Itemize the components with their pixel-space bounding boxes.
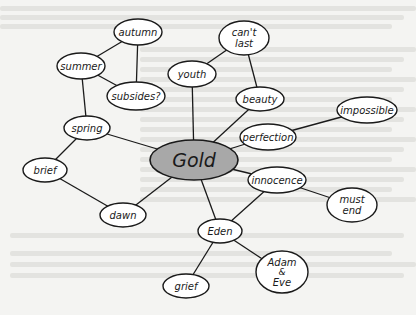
node-label: subsides? [112,91,162,102]
node-label: summer [60,61,102,72]
node-summer: summer [57,53,105,79]
node-impossible: impossible [337,97,397,123]
node-label: impossible [340,105,393,116]
node-innocence: innocence [248,167,306,193]
node-grief: grief [163,274,209,298]
node-label: grief [175,281,199,292]
node-eden: Eden [198,219,242,243]
node-spring: spring [64,116,110,140]
node-label: Eve [273,277,291,288]
node-label: & [278,267,285,277]
node-label: beauty [243,94,279,105]
node-youth: youth [168,61,216,87]
node-must-end: mustend [327,188,377,222]
node-label: dawn [110,210,137,221]
node-label: autumn [119,27,158,38]
node-subsides: subsides? [107,82,165,110]
node-beauty: beauty [236,87,284,111]
node-label: innocence [251,175,302,186]
node-label: Eden [207,226,232,237]
node-brief: brief [23,158,67,182]
node-perfection: perfection [240,124,296,150]
node-gold: Gold [150,140,238,180]
node-autumn: autumn [114,19,162,45]
node-label: youth [177,69,207,80]
node-label: last [235,38,254,49]
node-cant-last: can'tlast [219,21,269,55]
node-dawn: dawn [100,203,146,227]
node-label: Adam [266,257,296,268]
mind-map-diagram: autumnsummersubsides?springbriefdawnyout… [0,0,416,315]
node-label: perfection [242,132,294,143]
central-node-label: Gold [172,149,217,171]
node-label: brief [34,165,58,176]
node-label: spring [71,123,102,134]
node-label: can't [232,27,258,38]
node-label: end [343,205,362,216]
node-label: must [339,194,365,205]
node-adam-eve: Adam&Eve [256,251,308,293]
